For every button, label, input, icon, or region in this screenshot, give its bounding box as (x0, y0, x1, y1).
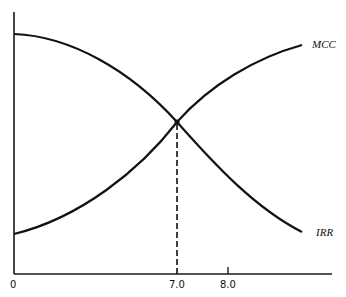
mcc-curve (14, 45, 302, 234)
origin-label: 0 (10, 279, 16, 290)
x-tick-8-label: 8.0 (220, 279, 236, 290)
irr-label: IRR (315, 226, 333, 238)
chart: 0 7.0 8.0 MCC IRR (0, 0, 346, 297)
x-intersect-label: 7.0 (169, 279, 185, 290)
mcc-label: MCC (311, 38, 337, 50)
irr-curve (14, 34, 302, 232)
intersection-point (175, 120, 180, 125)
